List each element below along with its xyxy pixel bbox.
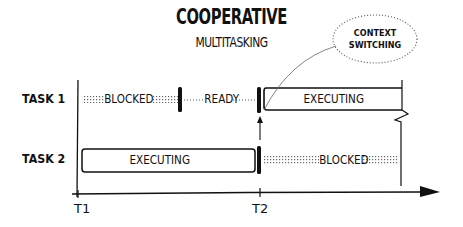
callout-line-1: CONTEXT <box>345 27 405 39</box>
task2-blocked-label: BLOCKED <box>319 152 368 167</box>
y-axis <box>77 80 78 197</box>
task1-executing-label: EXECUTING <box>304 91 364 106</box>
task1-blocked-label: BLOCKED <box>104 91 153 106</box>
task1-ready-label: READY <box>204 91 239 106</box>
callout-line-2: SWITCHING <box>345 39 405 51</box>
task1-blocked-hatch-a <box>82 95 105 103</box>
task1-blocked-hatch-b <box>153 95 179 103</box>
x-axis <box>72 192 420 194</box>
diagram-title: COOPERATIVE <box>51 5 412 29</box>
x-axis-arrowhead-icon <box>420 186 440 197</box>
row-label-task1: TASK 1 <box>22 91 65 106</box>
row-label-task2: TASK 2 <box>22 151 65 166</box>
callout-text: CONTEXT SWITCHING <box>345 27 405 51</box>
task1-blocked-end-marker <box>178 87 182 112</box>
task2-executing-label: EXECUTING <box>130 152 190 167</box>
switch-arrow-head-icon <box>257 116 263 123</box>
tick-label-t1: T1 <box>74 201 90 216</box>
task2-switch-marker <box>257 146 261 174</box>
tick-label-t2: T2 <box>252 201 268 216</box>
task2-blocked-hatch-a <box>264 155 319 164</box>
task1-switch-marker <box>257 87 261 113</box>
break-zigzag-icon <box>395 80 408 186</box>
